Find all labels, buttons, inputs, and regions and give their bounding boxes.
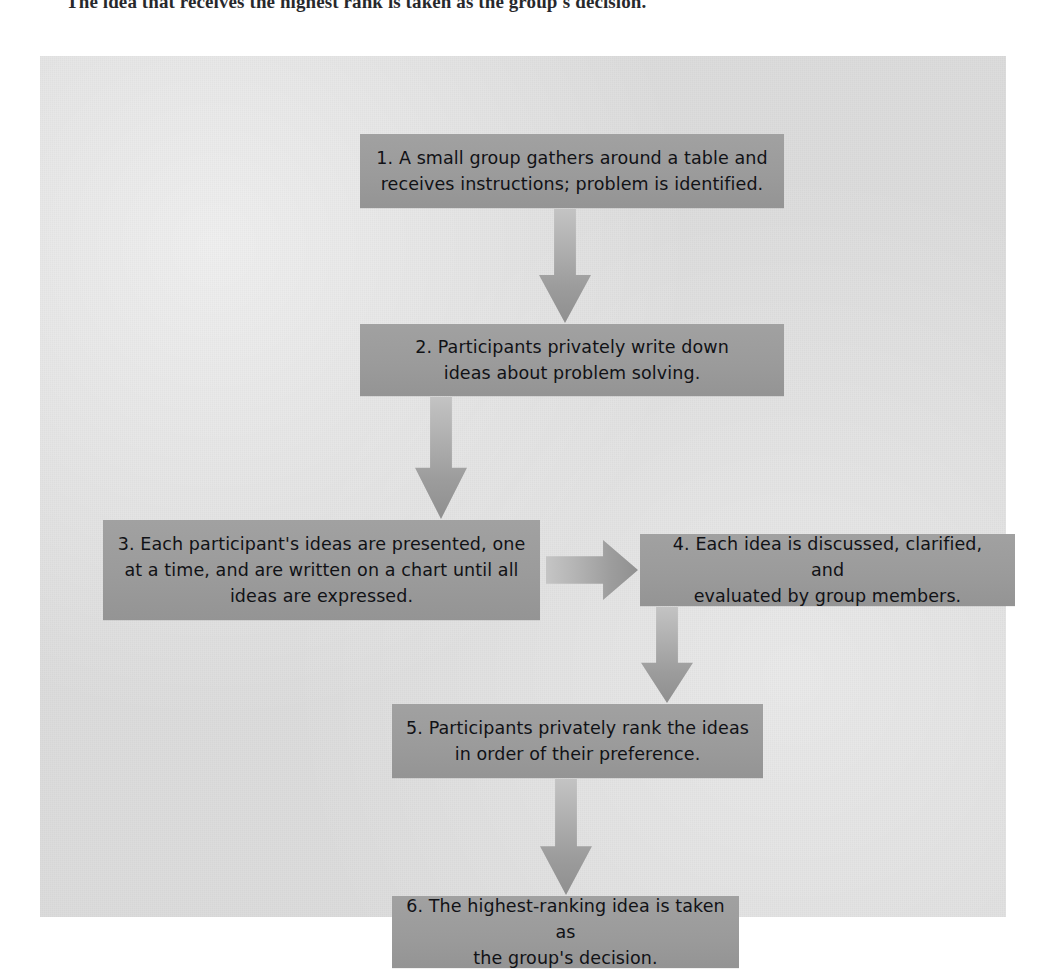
flow-step-5-line-1: 5. Participants privately rank the ideas [406,715,749,741]
flowchart-panel: 1. A small group gathers around a table … [40,56,1006,917]
flow-step-3: 3. Each participant's ideas are presente… [103,520,540,620]
flow-step-3-line-1: 3. Each participant's ideas are presente… [118,531,526,557]
flow-step-5-line-2: in order of their preference. [406,741,749,767]
flow-step-6-line-2: the group's decision. [406,945,725,971]
flow-step-5: 5. Participants privately rank the ideas… [392,704,763,778]
flow-step-4-line-2: evaluated by group members. [654,583,1001,609]
flow-step-1-line-1: 1. A small group gathers around a table … [376,145,767,171]
flow-step-2-line-1: 2. Participants privately write down [415,334,729,360]
flow-step-2-line-2: ideas about problem solving. [415,360,729,386]
arrow-down-step1-to-step2 [539,209,591,323]
flow-step-3-line-3: ideas are expressed. [118,583,526,609]
flow-step-6: 6. The highest-ranking idea is taken as … [392,896,739,968]
figure-caption: The idea that receives the highest rank … [66,0,766,13]
arrow-down-step2-to-step3 [415,397,467,519]
flow-step-1: 1. A small group gathers around a table … [360,134,784,208]
arrow-down-step5-to-step6 [540,779,592,895]
flow-step-2: 2. Participants privately write down ide… [360,324,784,396]
arrow-down-step4-to-step5 [641,607,693,703]
flow-step-6-line-1: 6. The highest-ranking idea is taken as [406,893,725,946]
flow-step-4-line-1: 4. Each idea is discussed, clarified, an… [654,531,1001,584]
arrow-right-step3-to-step4 [546,540,638,600]
flow-step-3-line-2: at a time, and are written on a chart un… [118,557,526,583]
flow-step-1-line-2: receives instructions; problem is identi… [376,171,767,197]
flow-step-4: 4. Each idea is discussed, clarified, an… [640,534,1015,606]
